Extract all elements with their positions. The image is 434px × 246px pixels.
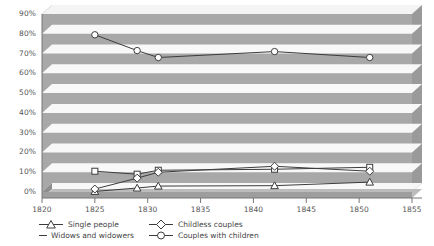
y-tick-label: 30% [2,128,36,137]
x-tick-label: 1850 [347,205,371,214]
gridline [42,25,422,34]
legend-item-single-people[interactable]: Single people [38,219,134,230]
data-point-circle [155,54,161,60]
legend-label: Widows and widowers [51,231,134,240]
legend-row-2: Widows and widowers Couples with childre… [38,230,273,241]
gridline [42,5,422,14]
triangle-marker-icon [38,219,64,230]
x-tick-label: 1820 [30,205,54,214]
data-point-circle [271,48,277,54]
circle-marker-icon [148,230,174,241]
data-point-square [92,168,98,174]
legend-item-childless-couples[interactable]: Childless couples [148,219,243,230]
gridline [42,45,422,54]
line-chart: 0%10%20%30%40%50%60%70%80%90% 1820182518… [0,0,434,246]
legend-label: Childless couples [178,220,243,229]
gridline [42,104,422,113]
y-tick-label: 50% [2,88,36,97]
gridline [42,143,422,152]
legend-item-widows-and-widowers[interactable]: Widows and widowers [38,230,134,241]
gridline [42,124,422,133]
x-tick-label: 1835 [189,205,213,214]
legend-item-couples-with-children[interactable]: Couples with children [148,230,259,241]
y-tick-label: 70% [2,49,36,58]
data-point-circle [92,32,98,38]
legend-label: Couples with children [178,231,259,240]
diamond-marker-icon [148,219,174,230]
legend-label: Single people [68,220,119,229]
y-tick-label: 10% [2,167,36,176]
y-tick-label: 80% [2,29,36,38]
x-tick-label: 1845 [294,205,318,214]
x-tick-label: 1855 [400,205,424,214]
x-tick-label: 1825 [83,205,107,214]
gridline [42,84,422,93]
legend-row-1: Single people Childless couples [38,219,273,230]
y-tick-label: 90% [2,9,36,18]
square-marker-icon [38,230,47,241]
x-tick-label: 1830 [136,205,160,214]
gridline [42,64,422,73]
chart-legend: Single people Childless couples Widows a… [38,219,273,241]
x-tick-label: 1840 [241,205,265,214]
y-tick-label: 0% [2,187,36,196]
y-tick-label: 40% [2,108,36,117]
data-point-circle [367,54,373,60]
data-point-circle [134,47,140,53]
y-tick-label: 60% [2,68,36,77]
y-tick-label: 20% [2,147,36,156]
